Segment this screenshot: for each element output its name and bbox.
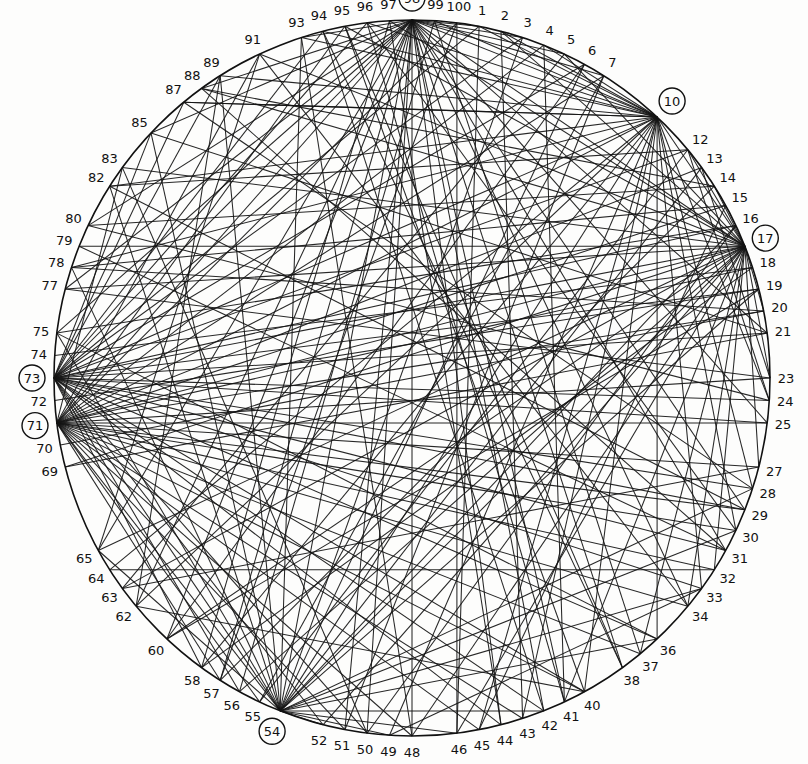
node-label: 30	[742, 530, 759, 545]
node-13: 13	[706, 151, 723, 166]
node-label: 1	[478, 3, 486, 18]
chord-71-30	[57, 423, 736, 531]
node-18: 18	[759, 255, 776, 270]
node-31: 31	[731, 551, 748, 566]
node-label: 40	[584, 698, 601, 713]
node-60: 60	[148, 643, 165, 658]
node-44: 44	[497, 733, 514, 748]
node-37: 37	[642, 659, 659, 674]
node-label: 17	[757, 231, 774, 246]
node-95: 95	[334, 3, 351, 18]
node-label: 25	[775, 417, 792, 432]
node-50: 50	[357, 742, 374, 757]
chord-89-62	[136, 76, 220, 607]
node-label: 15	[731, 190, 748, 205]
node-2: 2	[501, 8, 509, 23]
node-label: 29	[751, 508, 768, 523]
node-label: 74	[30, 347, 47, 362]
node-label: 51	[334, 738, 351, 753]
node-78: 78	[48, 255, 65, 270]
chord-network-diagram: 1234567101213141516171819202123242527282…	[0, 0, 808, 764]
node-1: 1	[478, 3, 486, 18]
node-label: 4	[546, 23, 554, 38]
node-23: 23	[778, 371, 795, 386]
node-71-hub: 71	[22, 413, 48, 439]
node-89: 89	[203, 55, 220, 70]
node-49: 49	[380, 744, 397, 759]
chord-17-41	[564, 246, 745, 702]
chord-38-95	[345, 26, 623, 667]
node-label: 48	[404, 745, 421, 760]
chord-91-65	[98, 54, 259, 550]
node-label: 56	[224, 698, 241, 713]
chord-lines	[54, 20, 770, 736]
node-label: 49	[380, 744, 397, 759]
node-label: 88	[184, 68, 201, 83]
chord-54-82	[110, 186, 281, 711]
node-87: 87	[165, 82, 182, 97]
chord-73-42	[54, 378, 544, 711]
node-80: 80	[65, 211, 82, 226]
node-88: 88	[184, 68, 201, 83]
chord-98-73	[54, 20, 412, 378]
node-91: 91	[245, 32, 262, 47]
node-94: 94	[311, 8, 328, 23]
node-label: 12	[692, 132, 709, 147]
node-label: 65	[76, 551, 93, 566]
node-label: 21	[775, 324, 792, 339]
node-label: 5	[567, 32, 575, 47]
node-label: 3	[523, 15, 531, 30]
node-label: 99	[427, 0, 444, 12]
chord-95-40	[345, 26, 585, 691]
node-46: 46	[451, 742, 468, 757]
node-83: 83	[101, 151, 118, 166]
node-55: 55	[245, 709, 262, 724]
node-label: 7	[608, 55, 616, 70]
node-41: 41	[563, 709, 580, 724]
node-label: 19	[766, 278, 783, 293]
node-label: 16	[742, 211, 759, 226]
node-label: 23	[778, 371, 795, 386]
chord-60-19	[167, 289, 759, 639]
chord-55-12	[260, 150, 688, 702]
node-label: 72	[30, 394, 47, 409]
node-label: 10	[664, 94, 681, 109]
chord-71-40	[57, 423, 585, 692]
node-labels: 1234567101213141516171819202123242527282…	[19, 0, 794, 760]
chord-71-37	[57, 423, 640, 654]
node-6: 6	[588, 43, 596, 58]
node-label: 14	[720, 170, 737, 185]
node-15: 15	[731, 190, 748, 205]
chord-54-89	[220, 76, 280, 711]
chord-17-56	[240, 246, 745, 692]
node-label: 52	[311, 733, 328, 748]
node-75: 75	[33, 324, 50, 339]
node-label: 32	[720, 571, 737, 586]
node-label: 73	[24, 371, 41, 386]
node-label: 71	[27, 418, 44, 433]
node-16: 16	[742, 211, 759, 226]
node-14: 14	[720, 170, 737, 185]
node-label: 18	[759, 255, 776, 270]
node-93: 93	[288, 15, 305, 30]
node-82: 82	[88, 170, 105, 185]
chord-87-10	[184, 102, 657, 117]
node-40: 40	[584, 698, 601, 713]
node-100: 100	[446, 0, 471, 14]
node-36: 36	[660, 643, 677, 658]
node-57: 57	[203, 686, 220, 701]
node-label: 93	[288, 15, 305, 30]
node-20: 20	[771, 300, 788, 315]
node-85: 85	[131, 115, 148, 130]
node-label: 96	[357, 0, 374, 14]
chord-71-43	[57, 423, 523, 719]
chord-73-19	[54, 289, 759, 378]
chord-71-29	[57, 423, 745, 510]
chord-98-10	[412, 20, 657, 117]
node-28: 28	[759, 486, 776, 501]
node-label: 54	[264, 724, 281, 739]
chord-73-44	[54, 378, 501, 725]
node-label: 33	[706, 590, 723, 605]
node-label: 94	[311, 8, 328, 23]
node-label: 6	[588, 43, 596, 58]
